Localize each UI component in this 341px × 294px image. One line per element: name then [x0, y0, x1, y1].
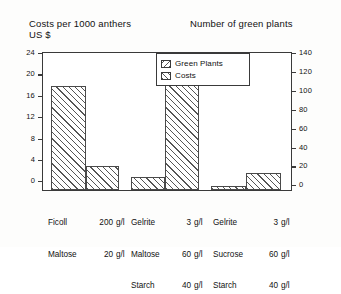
- x-g2-r3-amount: 40: [175, 281, 191, 292]
- left-axis-title-line1: Costs per 1000 anthers: [29, 18, 131, 30]
- left-tick-24: [38, 53, 43, 54]
- bar-costs-group2: [131, 177, 165, 190]
- right-tick-80: [291, 110, 296, 111]
- x-g2-r2-unit: g/l: [194, 250, 203, 261]
- x-group2-row2: Maltose 60 g/l: [131, 250, 203, 261]
- x-g3-r1-name: Gelrite: [213, 218, 260, 229]
- bar-green-plants-group1: [86, 166, 119, 190]
- x-g2-r2-amount: 60: [175, 250, 191, 261]
- left-ticklabel-4: 4: [31, 156, 35, 164]
- x-group1-row2: Maltose 20 g/l: [48, 250, 125, 261]
- x-g3-r1-unit: g/l: [281, 218, 290, 229]
- x-g2-r3-unit: g/l: [194, 281, 203, 292]
- right-tick-120: [291, 72, 296, 73]
- right-ticklabel-40: 40: [299, 144, 308, 152]
- x-group3-row2: Sucrose 60 g/l: [213, 250, 290, 261]
- x-g2-r1-name: Gelrite: [131, 218, 175, 229]
- bar-costs-group3: [211, 186, 246, 190]
- x-g3-r2-amount: 60: [260, 250, 278, 261]
- legend-label-costs: Costs: [175, 71, 196, 80]
- right-tick-0: [291, 185, 296, 186]
- right-ticklabel-60: 60: [299, 125, 308, 133]
- right-tick-20: [291, 166, 296, 167]
- right-axis-title: Number of green plants: [190, 18, 293, 30]
- right-ticklabel-80: 80: [299, 106, 308, 114]
- right-tick-140: [291, 53, 296, 54]
- right-tick-40: [291, 148, 296, 149]
- left-tick-0: [38, 181, 43, 182]
- x-g2-r2-name: Maltose: [131, 250, 175, 261]
- x-group1-row1: Ficoll 200 g/l: [48, 218, 125, 229]
- bar-green-plants-group3: [246, 173, 281, 190]
- legend-item-costs: Costs: [161, 70, 244, 81]
- left-ticklabel-16: 16: [26, 92, 35, 100]
- x-g1-r1-name: Ficoll: [48, 218, 92, 229]
- left-tick-12: [38, 117, 43, 118]
- x-g3-r1-amount: 3: [260, 218, 278, 229]
- x-g1-r1-amount: 200: [92, 218, 113, 229]
- left-tick-16: [38, 96, 43, 97]
- left-ticklabel-8: 8: [31, 135, 35, 143]
- bar-costs-group1: [51, 86, 86, 190]
- left-axis-title-line2: US $: [29, 29, 51, 41]
- x-g1-r2-unit: g/l: [116, 250, 125, 261]
- right-ticklabel-120: 120: [299, 68, 312, 76]
- x-g1-r2-name: Maltose: [48, 250, 92, 261]
- legend-label-green-plants: Green Plants: [175, 59, 223, 68]
- legend-item-green-plants: Green Plants: [161, 58, 244, 69]
- x-group3-row1: Gelrite 3 g/l: [213, 218, 290, 229]
- left-tick-8: [38, 139, 43, 140]
- x-group-label-2: Gelrite 3 g/l Maltose 60 g/l Starch 40 g…: [131, 197, 203, 294]
- hatch-backslash-swatch-icon: [161, 60, 171, 68]
- left-tick-4: [38, 160, 43, 161]
- bar-green-plants-group2: [165, 71, 199, 190]
- x-g1-r1-unit: g/l: [116, 218, 125, 229]
- x-g3-r3-name: Starch: [213, 281, 260, 292]
- left-ticklabel-0: 0: [31, 177, 35, 185]
- right-tick-60: [291, 129, 296, 130]
- x-group2-row3: Starch 40 g/l: [131, 281, 203, 292]
- right-tick-100: [291, 91, 296, 92]
- x-g2-r1-unit: g/l: [194, 218, 203, 229]
- x-g1-r2-amount: 20: [92, 250, 113, 261]
- x-group-label-1: Ficoll 200 g/l Maltose 20 g/l: [48, 197, 125, 281]
- x-g3-r2-name: Sucrose: [213, 250, 260, 261]
- left-tick-20: [38, 74, 43, 75]
- left-ticklabel-20: 20: [26, 70, 35, 78]
- right-ticklabel-100: 100: [299, 87, 312, 95]
- left-ticklabel-12: 12: [26, 113, 35, 121]
- right-ticklabel-20: 20: [299, 162, 308, 170]
- x-group3-row3: Starch 40 g/l: [213, 281, 290, 292]
- x-g3-r3-unit: g/l: [281, 281, 290, 292]
- x-group-label-3: Gelrite 3 g/l Sucrose 60 g/l Starch 40 g…: [213, 197, 290, 294]
- chart-legend: Green Plants Costs: [156, 53, 250, 86]
- x-g2-r1-amount: 3: [175, 218, 191, 229]
- right-ticklabel-140: 140: [299, 49, 312, 57]
- x-g3-r2-unit: g/l: [281, 250, 290, 261]
- left-ticklabel-24: 24: [26, 49, 35, 57]
- x-group2-row1: Gelrite 3 g/l: [131, 218, 203, 229]
- x-g3-r3-amount: 40: [260, 281, 278, 292]
- hatch-slash-swatch-icon: [161, 72, 171, 80]
- x-g2-r3-name: Starch: [131, 281, 175, 292]
- right-ticklabel-0: 0: [299, 181, 303, 189]
